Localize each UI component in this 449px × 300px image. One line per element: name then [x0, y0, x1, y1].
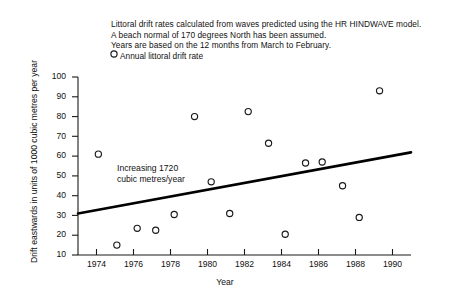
- data-point: [153, 227, 159, 233]
- chart-title-line-3: Years are based on the 12 months from Ma…: [111, 40, 331, 51]
- y-tick-label: 20: [40, 229, 66, 239]
- y-tick-label: 70: [40, 131, 66, 141]
- legend-marker-open-circle-icon: [111, 51, 117, 57]
- chart-title-line-1: Littoral drift rates calculated from wav…: [111, 19, 421, 30]
- data-point: [114, 242, 120, 248]
- x-axis-ticks: [97, 249, 393, 255]
- y-tick-label: 80: [40, 111, 66, 121]
- data-point: [265, 140, 271, 146]
- y-tick-label: 90: [40, 91, 66, 101]
- data-point: [227, 210, 233, 216]
- y-tick-label: 30: [40, 210, 66, 220]
- data-point: [134, 225, 140, 231]
- x-axis-title: Year: [180, 277, 270, 287]
- x-tick-label: 1980: [188, 259, 228, 269]
- x-tick-label: 1986: [299, 259, 339, 269]
- y-tick-label: 40: [40, 190, 66, 200]
- data-point: [191, 113, 197, 119]
- x-tick-label: 1984: [262, 259, 302, 269]
- data-point: [302, 160, 308, 166]
- x-tick-label: 1988: [336, 259, 376, 269]
- y-tick-label: 10: [40, 249, 66, 259]
- trend-annotation-line-1: Increasing 1720: [117, 163, 178, 174]
- y-axis-ticks: [72, 77, 78, 255]
- data-point: [171, 211, 177, 217]
- x-tick-label: 1976: [114, 259, 154, 269]
- y-axis-title: Drift eastwards in units of 1000 cubic m…: [29, 63, 39, 263]
- y-tick-label: 100: [40, 71, 66, 81]
- x-tick-label: 1982: [225, 259, 265, 269]
- x-tick-label: 1978: [151, 259, 191, 269]
- trend-annotation-line-2: cubic metres/year: [117, 174, 185, 185]
- data-point: [319, 159, 325, 165]
- data-point: [245, 109, 251, 115]
- data-point: [95, 151, 101, 157]
- data-point: [376, 88, 382, 94]
- chart-figure: Littoral drift rates calculated from wav…: [0, 0, 449, 300]
- data-point: [339, 183, 345, 189]
- data-point: [356, 214, 362, 220]
- x-tick-label: 1990: [373, 259, 413, 269]
- legend-label: Annual littoral drift rate: [120, 51, 203, 61]
- data-point: [208, 179, 214, 185]
- data-point: [282, 231, 288, 237]
- chart-title-line-2: A beach normal of 170 degrees North has …: [111, 30, 326, 41]
- y-tick-label: 60: [40, 150, 66, 160]
- x-tick-label: 1974: [77, 259, 117, 269]
- y-tick-label: 50: [40, 170, 66, 180]
